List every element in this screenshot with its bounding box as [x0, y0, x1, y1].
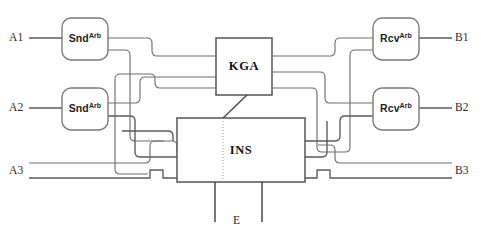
port-label-e: E [233, 214, 240, 226]
wire-kga-to-ins-diagonal [223, 95, 247, 118]
block-label-snd-2: SndArb [62, 102, 108, 114]
block-diagram: SndArb SndArb RcvArb RcvArb KGA INS A1 A… [0, 0, 481, 240]
wire-snd1-to-kga [108, 38, 216, 56]
wire-kga-to-rcv1 [272, 38, 375, 56]
wire-snd2-to-kga [108, 77, 216, 103]
wire-snd2-to-ins [108, 116, 177, 157]
wire-snd1-to-ins [108, 50, 177, 152]
block-label-kga: KGA [216, 59, 272, 74]
block-label-rcv-1: RcvArb [373, 32, 419, 44]
wire-a3-upper [29, 141, 164, 163]
port-label-b3: B3 [455, 164, 469, 176]
port-label-a3: A3 [9, 164, 23, 176]
port-label-b2: B2 [455, 101, 469, 113]
block-label-ins: INS [177, 143, 305, 158]
wire-a3-main [29, 170, 177, 178]
block-label-snd-1: SndArb [62, 32, 108, 44]
port-label-a1: A1 [9, 31, 23, 43]
port-label-a2: A2 [9, 101, 23, 113]
wire-b3-upper [318, 145, 452, 163]
port-label-b1: B1 [455, 31, 469, 43]
wire-b3-main [305, 170, 452, 178]
block-label-rcv-2: RcvArb [373, 102, 419, 114]
wire-ins-to-rcv2 [305, 116, 375, 141]
